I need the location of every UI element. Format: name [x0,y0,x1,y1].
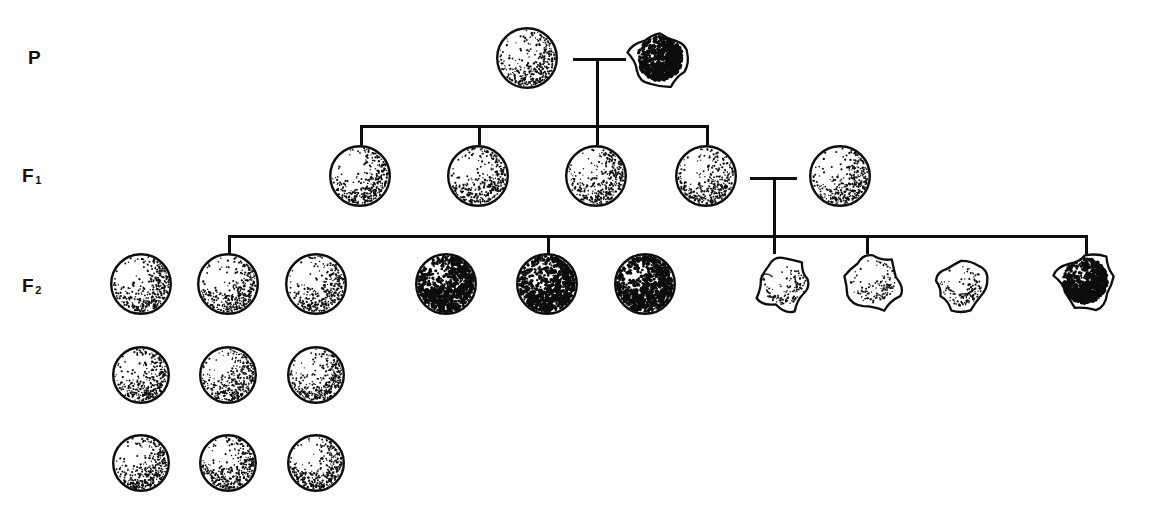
f1-offspring-4 [669,139,743,213]
f2-seed-r3c2 [193,428,263,498]
p-parent-wrinkled-dark [623,21,697,95]
f2-seed-r1c5 [510,247,584,321]
f2-seed-r1c7 [748,247,820,319]
f1-offspring-3 [559,139,633,213]
f2-seed-r2c3 [281,340,351,410]
f2-seed-r1c9 [926,250,996,320]
p-parent-round-light [490,21,564,95]
f2-seed-r3c1 [106,428,176,498]
f2-seed-r1c2 [191,247,265,321]
f2-seed-r3c3 [281,428,351,498]
f2-seed-r1c4 [409,247,483,321]
f1-offspring-2 [441,139,515,213]
f2-seed-r2c1 [106,340,176,410]
f2-seed-r1c6 [608,247,682,321]
organism-layer [0,0,1162,516]
f2-seed-r1c1 [104,247,178,321]
f2-seed-r1c8 [836,244,910,318]
f1-offspring-5 [803,139,877,213]
f1-offspring-1 [323,139,397,213]
dihybrid-cross-diagram: P F1 F2 [0,0,1162,516]
f2-seed-r1c3 [279,247,353,321]
f2-seed-r2c2 [193,340,263,410]
f2-seed-r1c10 [1048,244,1122,318]
